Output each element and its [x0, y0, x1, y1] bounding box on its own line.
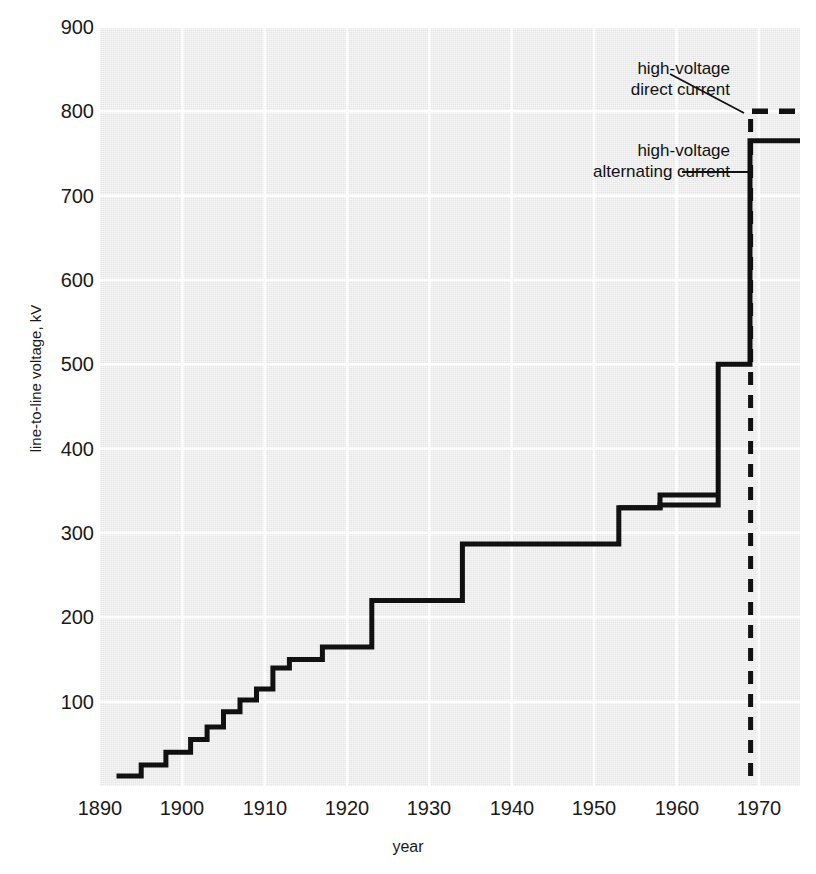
x-tick-1920: 1920 [312, 797, 382, 819]
x-axis-ticks: 1890 1900 1910 1920 1930 1940 1950 1960 … [100, 797, 816, 827]
annotation-hvdc: high-voltage direct current [430, 58, 730, 100]
y-axis-title: line-to-line voltage, kV [27, 249, 44, 509]
annotation-hvdc-line1: high-voltage [430, 58, 730, 79]
y-tick-300: 300 [22, 523, 94, 543]
y-tick-700: 700 [22, 186, 94, 206]
y-tick-800: 800 [22, 101, 94, 121]
series-hvac-step-line [117, 141, 801, 776]
x-tick-1960: 1960 [642, 797, 712, 819]
y-tick-100: 100 [22, 692, 94, 712]
annotation-hvac-line2: alternating current [430, 161, 730, 182]
annotation-hvac: high-voltage alternating current [430, 140, 730, 182]
annotation-hvac-line1: high-voltage [430, 140, 730, 161]
x-tick-1900: 1900 [147, 797, 217, 819]
y-tick-200: 200 [22, 607, 94, 627]
x-tick-1940: 1940 [477, 797, 547, 819]
x-tick-1970: 1970 [724, 797, 794, 819]
chart-figure: 900 800 700 600 500 400 300 200 100 line… [0, 0, 816, 874]
x-tick-1950: 1950 [559, 797, 629, 819]
y-tick-900: 900 [22, 17, 94, 37]
x-axis-title: year [0, 838, 816, 856]
x-tick-1890: 1890 [65, 797, 135, 819]
x-tick-1910: 1910 [230, 797, 300, 819]
annotation-hvdc-line2: direct current [430, 79, 730, 100]
x-tick-1930: 1930 [394, 797, 464, 819]
